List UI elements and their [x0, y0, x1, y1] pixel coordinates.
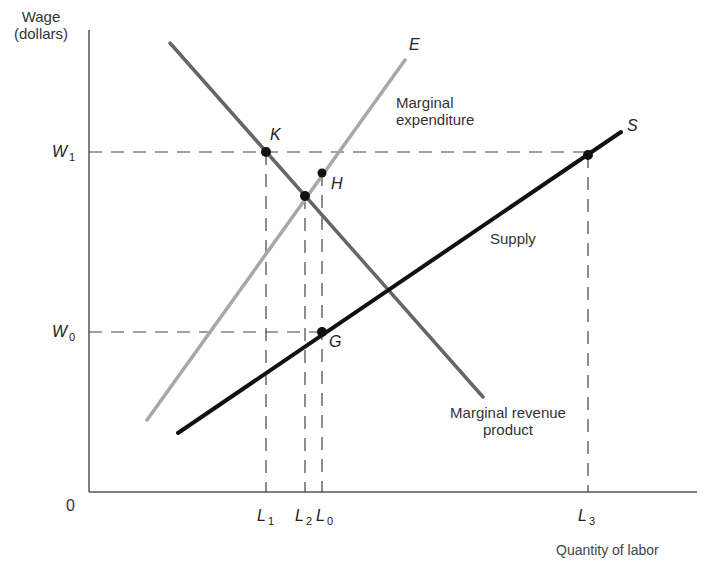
me-label-line1: Marginal	[396, 94, 474, 111]
point-g	[317, 327, 327, 337]
tick-l1: L1	[257, 507, 274, 528]
marginal-expenditure-label: Marginal expenditure	[396, 94, 474, 129]
point-label-h: H	[331, 175, 343, 193]
point-label-k: K	[270, 126, 281, 144]
supply-label: Supply	[490, 230, 536, 247]
me-label-line2: expenditure	[396, 111, 474, 128]
point-label-g: G	[329, 333, 341, 351]
x-axis-label: Quantity of labor	[556, 542, 659, 558]
origin-label: 0	[66, 497, 75, 515]
y-axis-label-line1: Wage	[4, 8, 78, 25]
y-axis-label-line2: (dollars)	[4, 25, 78, 42]
point-h	[318, 169, 327, 178]
tick-l2: L2	[295, 507, 312, 528]
mrp-label-line1: Marginal revenue	[430, 404, 586, 421]
tick-w0: W0	[52, 323, 75, 344]
tick-l0: L0	[316, 507, 333, 528]
curve-end-label-e: E	[409, 36, 420, 54]
mrp-label-line2: product	[430, 421, 586, 438]
point-k	[261, 147, 271, 157]
y-axis-label: Wage (dollars)	[4, 8, 78, 43]
mrp-label: Marginal revenue product	[430, 404, 586, 439]
point-intersection-me-mrp	[300, 191, 310, 201]
tick-l3: L3	[578, 507, 595, 528]
curve-end-label-s: S	[627, 117, 638, 135]
diagram-canvas	[0, 0, 727, 585]
tick-w1: W1	[52, 143, 75, 164]
point-supply-w1	[583, 150, 593, 160]
